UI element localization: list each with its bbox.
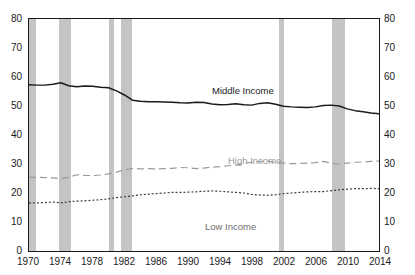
x-axis-label: 1978 (75, 256, 109, 267)
x-axis-label: 1986 (139, 256, 173, 267)
y-axis-label-right: 70 (384, 43, 406, 53)
y-axis-label-right: 40 (384, 130, 406, 140)
series-layer (29, 19, 379, 251)
series-label-low-income: Low Income (205, 222, 256, 232)
y-axis-label-left: 30 (0, 159, 22, 169)
y-axis-label-left: 50 (0, 101, 22, 111)
series-label-middle-income: Middle Income (212, 86, 274, 96)
x-axis-label: 1990 (171, 256, 205, 267)
y-axis-label-left: 40 (0, 130, 22, 140)
x-axis-label: 1994 (203, 256, 237, 267)
y-axis-label-right: 20 (384, 188, 406, 198)
series-line-high-income (29, 161, 379, 178)
x-axis-label: 1982 (107, 256, 141, 267)
series-label-high-income: High Income (228, 156, 281, 166)
y-axis-label-left: 0 (0, 246, 22, 256)
x-axis-label: 1998 (235, 256, 269, 267)
series-line-low-income (29, 188, 379, 203)
x-axis-label: 1970 (11, 256, 45, 267)
y-axis-label-left: 10 (0, 217, 22, 227)
y-axis-label-left: 60 (0, 72, 22, 82)
income-distribution-chart: 80 70 60 50 40 30 20 10 0 80 70 60 50 40… (0, 0, 415, 275)
y-axis-label-right: 30 (384, 159, 406, 169)
series-line-middle-income (29, 83, 379, 114)
x-axis-label: 2006 (299, 256, 333, 267)
plot-area: Middle Income High Income Low Income (28, 18, 380, 252)
x-axis-label: 2002 (267, 256, 301, 267)
x-axis-label: 1974 (43, 256, 77, 267)
y-axis-label-right: 60 (384, 72, 406, 82)
y-axis-label-right: 0 (384, 246, 406, 256)
x-axis-label: 2010 (331, 256, 365, 267)
y-axis-label-right: 80 (384, 14, 406, 24)
y-axis-label-left: 70 (0, 43, 22, 53)
y-axis-label-right: 10 (384, 217, 406, 227)
y-axis-label-left: 80 (0, 14, 22, 24)
y-axis-label-left: 20 (0, 188, 22, 198)
y-axis-label-right: 50 (384, 101, 406, 111)
x-axis-label: 2014 (363, 256, 397, 267)
